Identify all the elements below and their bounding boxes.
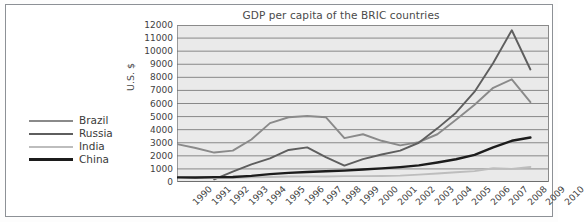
legend-label-china: China xyxy=(79,153,109,166)
y-tick-5000: 5000 xyxy=(150,112,173,122)
y-tick-6000: 6000 xyxy=(150,99,173,109)
y-tick-10000: 10000 xyxy=(144,46,173,56)
legend-swatch-india xyxy=(29,146,73,148)
y-tick-12000: 12000 xyxy=(144,20,173,30)
chart-container: GDP per capita of the BRIC countries U.S… xyxy=(131,6,551,216)
plot-lines xyxy=(177,25,549,182)
x-tick-2004: 2004 xyxy=(451,184,474,207)
x-tick-1990: 1990 xyxy=(191,184,214,207)
x-tick-2002: 2002 xyxy=(414,184,437,207)
legend-swatch-russia xyxy=(29,133,73,135)
x-tick-2003: 2003 xyxy=(433,184,456,207)
y-tick-1000: 1000 xyxy=(150,164,173,174)
y-tick-3000: 3000 xyxy=(150,138,173,148)
legend-item-china: China xyxy=(29,153,139,166)
x-axis-tick-labels: 1990199119921993199419951996199719981999… xyxy=(177,184,557,224)
x-tick-1995: 1995 xyxy=(284,184,307,207)
x-tick-1998: 1998 xyxy=(340,184,363,207)
chart-legend: Brazil Russia India China xyxy=(29,114,139,166)
legend-swatch-brazil xyxy=(29,120,73,122)
y-tick-9000: 9000 xyxy=(150,59,173,69)
y-tick-0: 0 xyxy=(167,177,173,187)
x-tick-1992: 1992 xyxy=(228,184,251,207)
legend-item-russia: Russia xyxy=(29,127,139,140)
x-tick-1994: 1994 xyxy=(265,184,288,207)
series-line-russia xyxy=(214,30,530,179)
y-tick-4000: 4000 xyxy=(150,125,173,135)
x-tick-2005: 2005 xyxy=(470,184,493,207)
x-tick-2008: 2008 xyxy=(526,184,549,207)
x-tick-1996: 1996 xyxy=(302,184,325,207)
legend-item-brazil: Brazil xyxy=(29,114,139,127)
x-tick-2001: 2001 xyxy=(395,184,418,207)
x-tick-1991: 1991 xyxy=(209,184,232,207)
legend-label-russia: Russia xyxy=(79,127,113,140)
x-tick-2006: 2006 xyxy=(488,184,511,207)
legend-label-india: India xyxy=(79,140,105,153)
legend-label-brazil: Brazil xyxy=(79,114,108,127)
x-tick-1999: 1999 xyxy=(358,184,381,207)
y-axis-tick-labels: 0100020003000400050006000700080009000100… xyxy=(129,25,173,182)
legend-item-india: India xyxy=(29,140,139,153)
y-tick-8000: 8000 xyxy=(150,72,173,82)
x-tick-2010: 2010 xyxy=(563,184,586,207)
x-tick-1997: 1997 xyxy=(321,184,344,207)
y-tick-11000: 11000 xyxy=(144,33,173,43)
plot-wrapper xyxy=(177,25,549,182)
chart-title: GDP per capita of the BRIC countries xyxy=(131,9,551,21)
x-tick-1993: 1993 xyxy=(247,184,270,207)
y-tick-2000: 2000 xyxy=(150,151,173,161)
legend-swatch-china xyxy=(29,158,73,161)
y-tick-7000: 7000 xyxy=(150,85,173,95)
x-tick-2009: 2009 xyxy=(544,184,567,207)
x-tick-2007: 2007 xyxy=(507,184,530,207)
x-tick-2000: 2000 xyxy=(377,184,400,207)
